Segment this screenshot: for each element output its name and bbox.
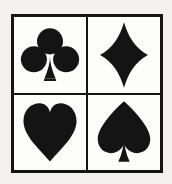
- spade-icon: [95, 100, 153, 164]
- suit-cell-hearts: [14, 94, 87, 171]
- suit-cell-spades: [87, 94, 160, 171]
- diamond-icon: [98, 21, 150, 89]
- club-icon: [19, 24, 81, 86]
- card-suits-figure: [0, 0, 172, 184]
- heart-icon: [21, 102, 79, 162]
- suit-grid: [11, 14, 163, 173]
- suit-cell-diamonds: [87, 17, 160, 94]
- suit-cell-clubs: [14, 17, 87, 94]
